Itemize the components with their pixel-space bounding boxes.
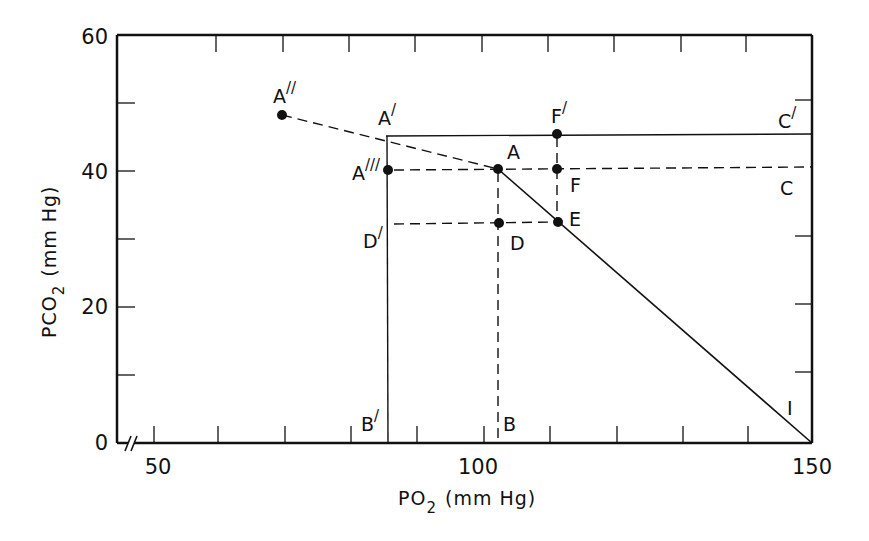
label-D1: D/ — [363, 224, 384, 252]
point-E — [553, 217, 563, 227]
point-A2 — [277, 110, 287, 120]
x-tick-label-50: 50 — [145, 455, 172, 479]
y-axis-title: PCO2(mm Hg) — [38, 186, 68, 338]
line-A1-C1 — [386, 134, 812, 136]
point-markers — [277, 110, 563, 228]
y-ticks-right — [795, 100, 812, 372]
label-B: B — [503, 413, 516, 435]
label-I: I — [787, 397, 793, 419]
label-A: A — [507, 141, 520, 163]
label-A2: A// — [273, 79, 297, 107]
label-A1: A/ — [378, 101, 397, 129]
point-F — [552, 164, 562, 174]
x-tick-label-150: 150 — [792, 455, 832, 479]
y-tick-label-20: 20 — [81, 295, 108, 319]
x-tick-label-100: 100 — [458, 455, 498, 479]
svg-text:PCO2(mm Hg): PCO2(mm Hg) — [38, 186, 68, 338]
point-A3 — [383, 165, 393, 175]
y-tick-label-60: 60 — [81, 25, 108, 49]
y-tick-label-0: 0 — [95, 431, 108, 455]
line-A3-C — [394, 167, 812, 170]
label-D: D — [510, 232, 525, 254]
label-F1: F/ — [551, 99, 568, 127]
point-A — [493, 164, 503, 174]
point-F1 — [552, 129, 562, 139]
y-ticks-left — [117, 103, 135, 375]
line-A1-B1 — [387, 136, 388, 443]
label-C: C — [780, 177, 793, 199]
x-axis-title: PO2(mm Hg) — [398, 487, 536, 517]
point-D — [494, 218, 504, 228]
x-ticks-top — [216, 35, 746, 52]
pco2-po2-diagram: 60 40 20 0 50 100 150 PO2(mm Hg) PCO2(mm… — [0, 0, 869, 541]
label-E: E — [569, 208, 581, 230]
label-F: F — [570, 174, 581, 196]
line-A-I — [498, 169, 812, 443]
x-ticks-bottom — [154, 426, 748, 443]
y-tick-label-40: 40 — [81, 160, 108, 184]
solid-lines — [386, 134, 812, 443]
svg-text:PO2(mm Hg): PO2(mm Hg) — [398, 487, 536, 517]
label-A3: A/// — [352, 156, 381, 184]
plot-frame — [117, 35, 812, 451]
label-B1: B/ — [361, 407, 380, 435]
line-D1-E — [394, 222, 558, 224]
label-C1: C/ — [778, 104, 797, 132]
